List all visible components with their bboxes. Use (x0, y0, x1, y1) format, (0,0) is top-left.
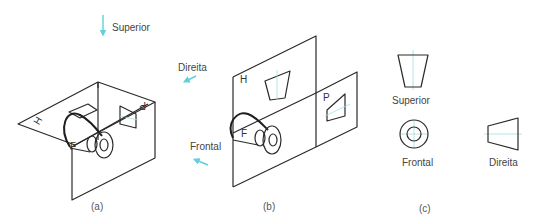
caption-c: (c) (419, 203, 431, 214)
view-label-direita: Direita (178, 62, 207, 73)
panel-c: Superior Frontal Direita (c) (392, 50, 522, 214)
view-label-direita: Direita (489, 157, 518, 168)
arrow-left-icon (186, 76, 196, 81)
plane-label-p: P (323, 92, 330, 103)
plane-label-h: H (240, 74, 247, 85)
plane-label-f: F (70, 141, 76, 152)
plane-label-p: P (139, 100, 146, 111)
view-label-frontal: Frontal (190, 141, 221, 152)
profile-plane (316, 72, 357, 147)
arrow-back-icon (196, 160, 208, 165)
plane-label-h: H (31, 115, 44, 127)
caption-a: (a) (91, 201, 103, 212)
view-label-superior: Superior (112, 22, 150, 33)
orthographic-projection-figure: H F P Superior (a) Direita Frontal H F (0, 0, 535, 218)
top-projection (265, 71, 290, 100)
view-label-superior: Superior (392, 95, 430, 106)
plane-label-f: F (241, 128, 247, 139)
panel-a: H F P Superior (a) (18, 15, 155, 212)
panel-b: Direita Frontal H F P (b) (178, 36, 357, 212)
caption-b: (b) (263, 201, 275, 212)
view-label-frontal: Frontal (402, 157, 433, 168)
